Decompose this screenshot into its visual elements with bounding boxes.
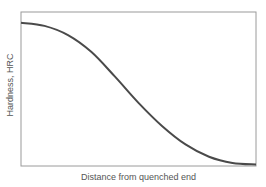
plot-frame — [21, 12, 256, 166]
hardness-curve — [21, 23, 256, 165]
x-axis-label: Distance from quenched end — [21, 172, 256, 182]
chart-plot — [0, 0, 266, 187]
y-axis-label: Hardness, HRC — [5, 37, 15, 133]
